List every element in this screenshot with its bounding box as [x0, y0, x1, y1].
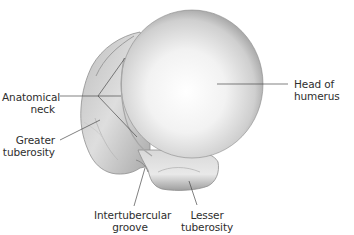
label-head-of-humerus-line2: humerus [294, 90, 352, 102]
leader-intertubercular-groove [134, 168, 145, 206]
label-greater-tuberosity-line2: tuberosity [2, 146, 55, 158]
label-head-of-humerus-line1: Head of [294, 78, 352, 90]
label-intertubercular-groove: Intertubercular groove [94, 209, 166, 233]
label-greater-tuberosity-line1: Greater [2, 134, 55, 146]
label-lesser-tuberosity-line1: Lesser [180, 209, 234, 221]
label-greater-tuberosity: Greater tuberosity [2, 134, 55, 158]
label-lesser-tuberosity-line2: tuberosity [180, 221, 234, 233]
label-lesser-tuberosity: Lesser tuberosity [180, 209, 234, 233]
humerus-illustration [0, 0, 354, 235]
anatomy-diagram: Anatomical neck Greater tuberosity Head … [0, 0, 354, 235]
label-anatomical-neck-line2: neck [2, 103, 55, 115]
label-intertubercular-groove-line2: groove [94, 221, 166, 233]
label-anatomical-neck-line1: Anatomical [2, 91, 55, 103]
label-head-of-humerus: Head of humerus [294, 78, 352, 102]
label-intertubercular-groove-line1: Intertubercular [94, 209, 166, 221]
label-anatomical-neck: Anatomical neck [2, 91, 55, 115]
